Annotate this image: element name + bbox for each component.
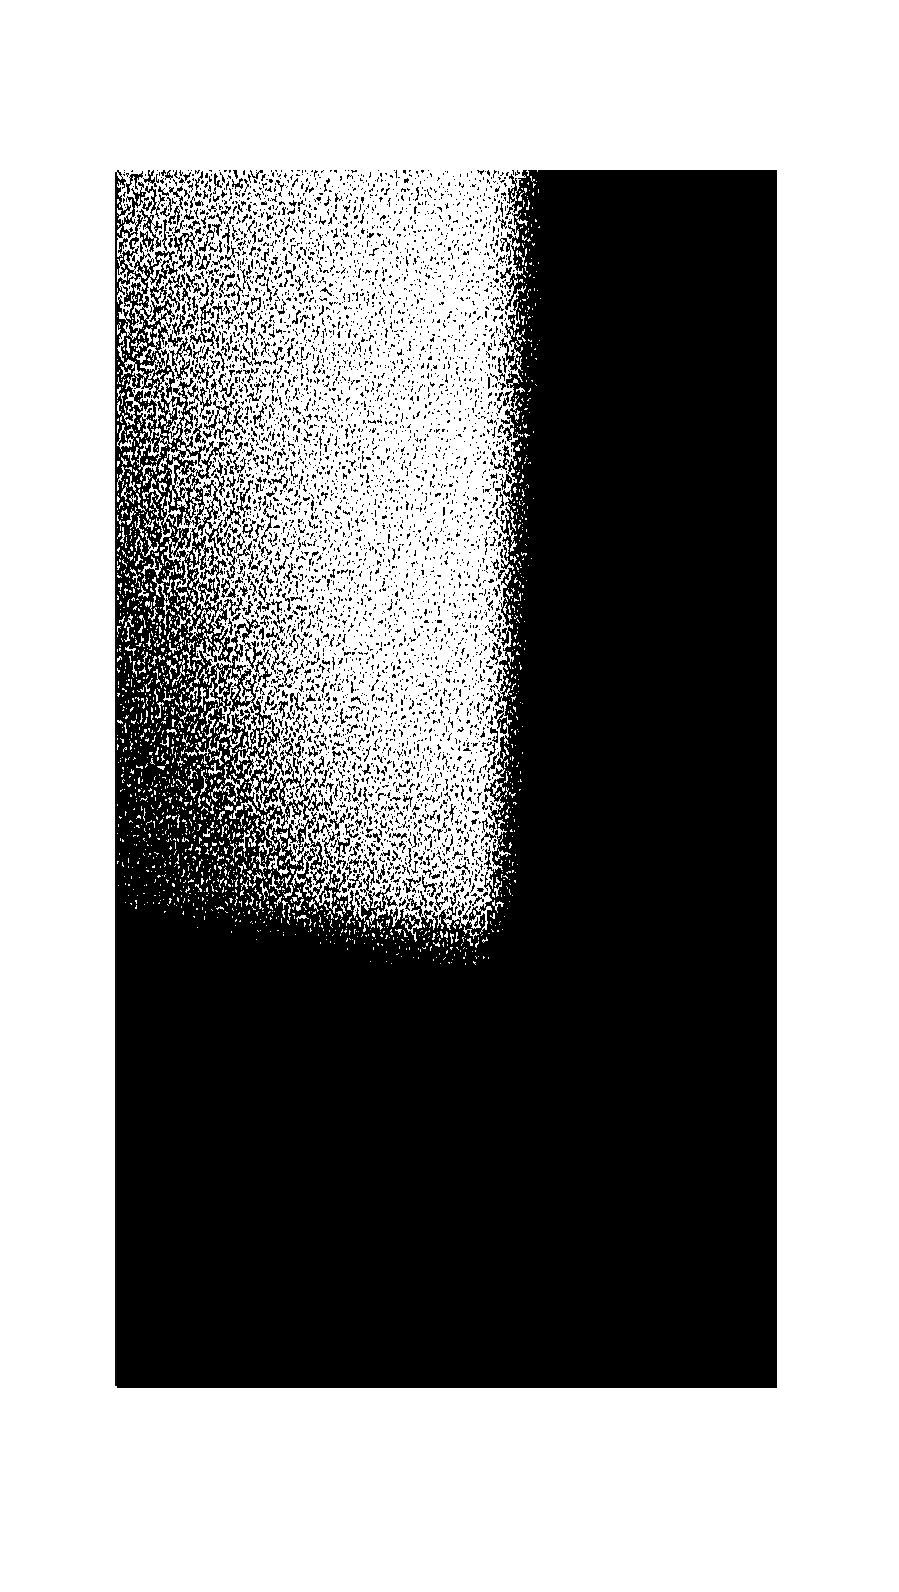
document-page: [0, 0, 899, 1592]
halftone-figure: [117, 170, 777, 1388]
halftone-image: [117, 170, 777, 1388]
